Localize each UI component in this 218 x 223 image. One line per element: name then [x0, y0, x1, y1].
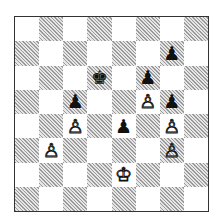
- square-h5[interactable]: [184, 90, 208, 114]
- square-a6[interactable]: [15, 66, 39, 90]
- square-f6[interactable]: ♟: [136, 66, 160, 90]
- black-pawn-icon[interactable]: ♟: [139, 68, 156, 87]
- square-a1[interactable]: [15, 187, 39, 211]
- square-g8[interactable]: [160, 17, 184, 41]
- square-f3[interactable]: [136, 138, 160, 162]
- black-king-icon[interactable]: ♚: [91, 68, 108, 87]
- square-g1[interactable]: [160, 187, 184, 211]
- square-c6[interactable]: [63, 66, 87, 90]
- square-b3[interactable]: ♙: [39, 138, 63, 162]
- white-king-icon[interactable]: ♔: [115, 165, 132, 184]
- square-g4[interactable]: ♙: [160, 114, 184, 138]
- square-d5[interactable]: [87, 90, 111, 114]
- black-pawn-icon[interactable]: ♟: [115, 117, 132, 136]
- white-pawn-icon[interactable]: ♙: [43, 141, 60, 160]
- square-a7[interactable]: [15, 41, 39, 65]
- white-pawn-icon[interactable]: ♙: [139, 92, 156, 111]
- square-g6[interactable]: [160, 66, 184, 90]
- white-pawn-icon[interactable]: ♙: [163, 117, 180, 136]
- square-c7[interactable]: [63, 41, 87, 65]
- square-h2[interactable]: [184, 163, 208, 187]
- square-e8[interactable]: [112, 17, 136, 41]
- square-f7[interactable]: [136, 41, 160, 65]
- square-b5[interactable]: [39, 90, 63, 114]
- square-b6[interactable]: [39, 66, 63, 90]
- square-a4[interactable]: [15, 114, 39, 138]
- square-d6[interactable]: ♚: [87, 66, 111, 90]
- square-e7[interactable]: [112, 41, 136, 65]
- white-pawn-icon[interactable]: ♙: [67, 117, 84, 136]
- square-e3[interactable]: [112, 138, 136, 162]
- square-b8[interactable]: [39, 17, 63, 41]
- square-d3[interactable]: [87, 138, 111, 162]
- black-pawn-icon[interactable]: ♟: [67, 92, 84, 111]
- square-h8[interactable]: [184, 17, 208, 41]
- square-a8[interactable]: [15, 17, 39, 41]
- chess-board: ♟♚♟♟♙♟♙♟♙♙♙♔: [14, 16, 209, 212]
- square-f4[interactable]: [136, 114, 160, 138]
- square-f5[interactable]: ♙: [136, 90, 160, 114]
- square-e4[interactable]: ♟: [112, 114, 136, 138]
- square-a2[interactable]: [15, 163, 39, 187]
- square-f1[interactable]: [136, 187, 160, 211]
- square-h3[interactable]: [184, 138, 208, 162]
- square-d4[interactable]: [87, 114, 111, 138]
- square-d1[interactable]: [87, 187, 111, 211]
- square-c3[interactable]: [63, 138, 87, 162]
- square-a3[interactable]: [15, 138, 39, 162]
- square-f2[interactable]: [136, 163, 160, 187]
- square-c2[interactable]: [63, 163, 87, 187]
- square-b7[interactable]: [39, 41, 63, 65]
- white-pawn-icon[interactable]: ♙: [163, 141, 180, 160]
- square-d8[interactable]: [87, 17, 111, 41]
- square-b2[interactable]: [39, 163, 63, 187]
- square-g2[interactable]: [160, 163, 184, 187]
- square-c1[interactable]: [63, 187, 87, 211]
- black-pawn-icon[interactable]: ♟: [163, 44, 180, 63]
- square-f8[interactable]: [136, 17, 160, 41]
- square-g3[interactable]: ♙: [160, 138, 184, 162]
- square-c8[interactable]: [63, 17, 87, 41]
- square-h7[interactable]: [184, 41, 208, 65]
- square-e2[interactable]: ♔: [112, 163, 136, 187]
- square-b1[interactable]: [39, 187, 63, 211]
- square-d2[interactable]: [87, 163, 111, 187]
- square-e6[interactable]: [112, 66, 136, 90]
- square-g5[interactable]: ♟: [160, 90, 184, 114]
- square-e5[interactable]: [112, 90, 136, 114]
- black-pawn-icon[interactable]: ♟: [163, 92, 180, 111]
- square-g7[interactable]: ♟: [160, 41, 184, 65]
- square-h1[interactable]: [184, 187, 208, 211]
- square-e1[interactable]: [112, 187, 136, 211]
- square-a5[interactable]: [15, 90, 39, 114]
- square-d7[interactable]: [87, 41, 111, 65]
- square-h4[interactable]: [184, 114, 208, 138]
- square-c4[interactable]: ♙: [63, 114, 87, 138]
- square-h6[interactable]: [184, 66, 208, 90]
- square-b4[interactable]: [39, 114, 63, 138]
- square-c5[interactable]: ♟: [63, 90, 87, 114]
